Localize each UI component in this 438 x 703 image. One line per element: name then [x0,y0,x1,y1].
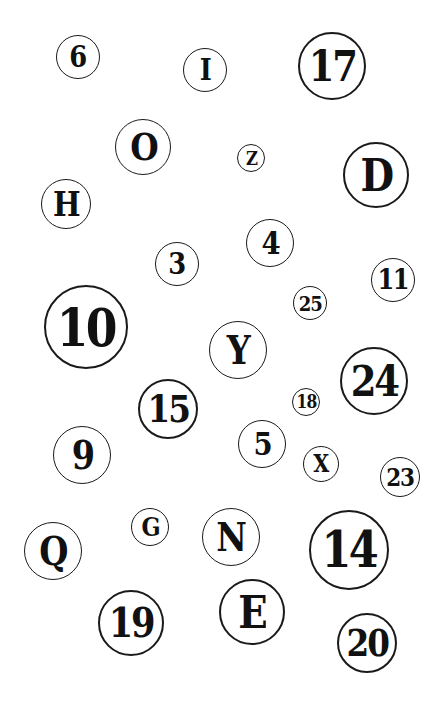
token-label: 11 [378,266,409,294]
token-circle[interactable]: Z [237,144,265,172]
token-circle[interactable]: G [131,508,169,546]
token-circle[interactable]: N [202,508,260,566]
token-label: 14 [322,525,377,575]
token-circle[interactable]: 25 [293,286,327,320]
token-circle[interactable]: H [41,179,91,229]
token-circle[interactable]: 18 [292,388,320,416]
token-label: 4 [261,227,279,259]
token-label: E [238,590,265,635]
token-circle[interactable]: 15 [138,379,198,439]
token-circle[interactable]: 3 [155,242,199,286]
token-circle[interactable]: 5 [238,420,286,468]
token-circle[interactable]: Q [24,522,82,580]
token-circle[interactable]: 14 [309,510,389,590]
token-label: Q [39,532,66,571]
token-circle[interactable]: Y [209,321,267,379]
token-label: 10 [57,301,115,354]
token-label: 17 [308,45,355,88]
token-circle[interactable]: E [219,579,285,645]
token-circle[interactable]: O [115,119,171,175]
token-circle[interactable]: 9 [53,426,111,484]
token-circle[interactable]: 6 [56,35,100,79]
token-label: D [360,153,391,198]
token-label: Y [227,331,249,370]
token-label: 5 [253,428,271,460]
token-label: X [314,452,329,476]
token-circle[interactable]: 10 [44,285,128,369]
token-circle[interactable]: 11 [371,258,415,302]
token-label: N [217,518,246,557]
token-label: 20 [346,624,388,662]
token-circle[interactable]: X [303,446,339,482]
token-label: 3 [169,249,185,279]
token-label: 25 [299,293,322,314]
token-label: O [130,128,157,166]
token-label: G [141,514,159,540]
token-circle[interactable]: 20 [337,613,397,673]
token-label: I [200,55,211,85]
token-label: 6 [70,42,86,72]
token-circle[interactable]: I [183,48,227,92]
token-circle[interactable]: 24 [340,347,408,415]
token-label: 18 [296,393,316,411]
token-label: 9 [71,436,92,475]
token-circle[interactable]: 4 [246,219,294,267]
token-board: 6I17OZDH43112510Y24181559X23GNQ14E1920 [0,0,438,703]
token-label: 19 [109,603,154,644]
token-circle[interactable]: 17 [298,32,366,100]
token-label: 23 [386,465,413,490]
token-label: Z [246,149,257,168]
token-label: H [53,187,79,221]
token-circle[interactable]: 19 [98,590,164,656]
token-circle[interactable]: 23 [380,457,420,497]
token-label: 24 [350,360,397,403]
token-label: 15 [147,390,189,428]
token-circle[interactable]: D [343,142,409,208]
